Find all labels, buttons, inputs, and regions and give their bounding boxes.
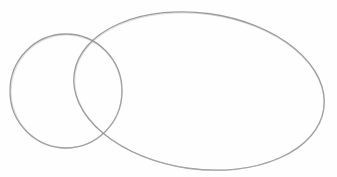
sketch-canvas: Pencil sketch of two overlapping ellipse… [0, 0, 337, 177]
sketch-drawing [0, 0, 337, 177]
large-ellipse-shape-overstroke [64, 0, 334, 177]
